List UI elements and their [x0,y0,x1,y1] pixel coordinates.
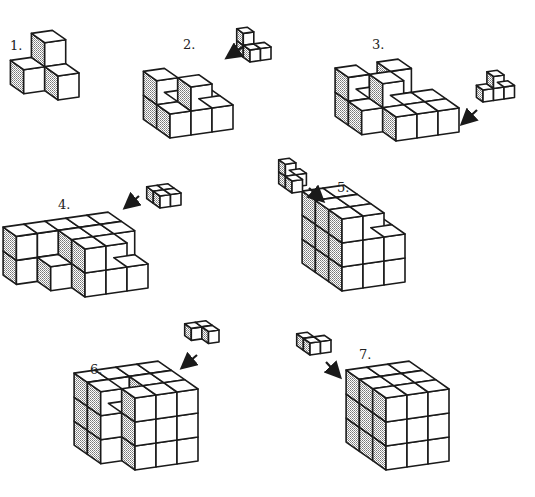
cube-front-face [212,105,233,132]
step-label-2: 2. [183,37,195,52]
cube-front-face [170,111,191,138]
step-7-new-piece [297,332,331,355]
cube-front-face [135,443,156,470]
cube-front-face [342,216,363,243]
cube-front-face [37,230,58,257]
cube-front-face [156,440,177,467]
cube-front-face [177,389,198,416]
step-3-arrow-icon [463,110,477,123]
cube-front-face [363,261,384,288]
cube-front-face [407,392,428,419]
cube-front-face [384,258,405,285]
step-label-6: 6. [90,362,102,377]
cube-front-face [85,270,106,297]
cube-front-face [135,419,156,446]
step-4-new-piece [147,184,181,208]
cube-front-face [177,413,198,440]
cube-front-face [428,389,449,416]
cube-drawing-canvas [0,0,535,497]
cube-front-face [156,416,177,443]
cube-front-face [417,111,438,138]
cube-front-face [407,440,428,467]
cube-front-face [85,246,106,273]
cube-assembly-diagram: 1. 2. 3. 4. 5. 6. 7. [0,0,535,497]
cube-front-face [51,264,72,291]
step-4-assembly [3,212,148,297]
cube-front-face [16,257,37,284]
step-label-3: 3. [372,37,384,52]
step-6-new-piece [185,321,219,344]
cube-front-face [342,264,363,291]
cube-front-face [101,437,122,464]
cube-front-face [342,240,363,267]
cube-front-face [156,392,177,419]
cube-front-face [438,108,459,135]
step-label-5: 5. [337,180,349,195]
cube-front-face [363,237,384,264]
step-2-assembly [143,68,233,138]
step-5-new-piece [279,158,307,193]
step-7-assembly [346,361,449,470]
step-3-new-piece [476,70,514,102]
cube-front-face [384,234,405,261]
step-6-assembly [74,361,198,470]
step-7-arrow-icon [326,362,339,376]
cube-front-face [45,40,66,67]
cube-front-face [428,437,449,464]
cube-front-face [127,264,148,291]
cube-front-face [362,108,383,135]
cube-front-face [407,416,428,443]
cube-front-face [386,395,407,422]
step-4-arrow-icon [126,196,139,207]
cube-front-face [106,267,127,294]
cube-front-face [191,108,212,135]
cube-front-face [24,67,45,94]
step-5-assembly [302,185,405,291]
cube-front-face [396,114,417,141]
cube-front-face [101,413,122,440]
step-3-assembly [335,59,459,141]
cube-front-face [386,419,407,446]
cube-front-face [16,233,37,260]
step-label-1: 1. [10,38,22,53]
step-label-4: 4. [58,197,70,212]
cube-front-face [177,437,198,464]
cube-front-face [386,443,407,470]
step-6-arrow-icon [183,355,197,367]
step-label-7: 7. [359,347,371,362]
cube-front-face [58,73,79,100]
step-2-new-piece [237,27,271,62]
cube-front-face [428,413,449,440]
cube-front-face [135,395,156,422]
